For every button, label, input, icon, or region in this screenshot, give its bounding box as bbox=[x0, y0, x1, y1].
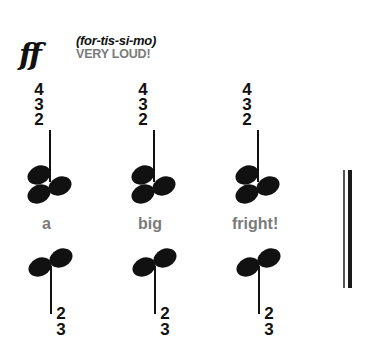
finger-number: 2 bbox=[54, 306, 68, 321]
finger-number: 3 bbox=[158, 322, 172, 337]
barline-thick bbox=[348, 170, 352, 288]
finger-number: 2 bbox=[32, 112, 46, 127]
note-stem bbox=[258, 266, 260, 314]
finger-number: 2 bbox=[158, 306, 172, 321]
finger-number: 2 bbox=[240, 112, 254, 127]
dynamic-meaning: VERY LOUD! bbox=[76, 48, 150, 61]
finger-number: 3 bbox=[54, 322, 68, 337]
note-stem bbox=[50, 266, 52, 314]
finger-number: 3 bbox=[262, 322, 276, 337]
barline-thin bbox=[343, 170, 345, 288]
finger-number: 2 bbox=[136, 112, 150, 127]
lyric-word: a bbox=[42, 216, 51, 232]
lyric-word: big bbox=[138, 216, 162, 232]
dynamic-pronunciation: (for-tis-si-mo) bbox=[76, 34, 156, 47]
note-stem bbox=[154, 266, 156, 314]
fortissimo-dynamic-symbol: ff bbox=[19, 40, 39, 70]
lyric-word: fright! bbox=[232, 216, 278, 232]
finger-number: 2 bbox=[262, 306, 276, 321]
